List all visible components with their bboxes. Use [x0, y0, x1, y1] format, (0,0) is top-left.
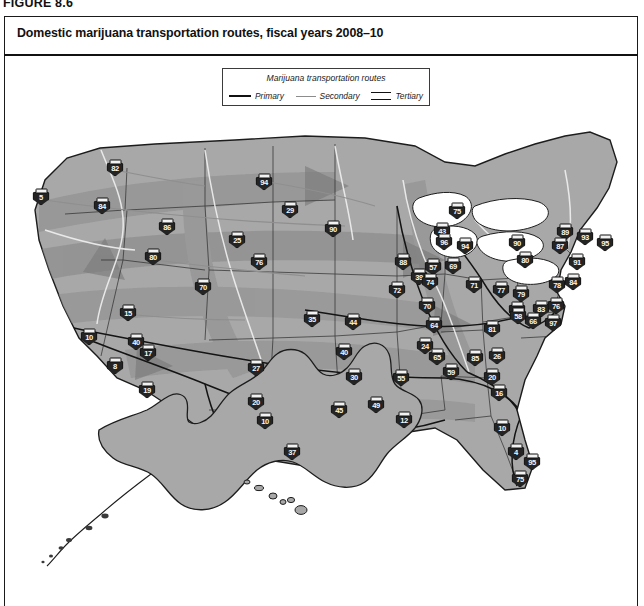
shield-number: 96	[436, 238, 453, 247]
interstate-shield-icon: 49	[368, 397, 385, 414]
shield-number: 35	[304, 315, 321, 324]
shield-number: 57	[425, 263, 442, 272]
interstate-shield-icon: 10	[257, 413, 274, 430]
shield-number: 87	[552, 242, 569, 251]
interstate-shield-icon: 55	[393, 370, 410, 387]
interstate-shield-icon: 76	[251, 254, 268, 271]
interstate-shield-icon: 64	[426, 317, 443, 334]
shield-number: 90	[325, 225, 342, 234]
interstate-shield-icon: 66	[525, 313, 542, 330]
shield-number: 77	[493, 286, 510, 295]
shield-number: 10	[81, 333, 98, 342]
shield-number: 16	[491, 389, 508, 398]
shield-number: 93	[577, 233, 594, 242]
shield-number: 66	[525, 317, 542, 326]
interstate-shield-icon: 97	[545, 315, 562, 332]
interstate-shield-icon: 82	[107, 160, 124, 177]
legend-title: Marijuana transportation routes	[223, 73, 429, 83]
shield-number: 5	[33, 193, 50, 202]
primary-route-swatch-icon	[229, 95, 251, 97]
shield-number: 78	[549, 281, 566, 290]
shield-number: 88	[395, 258, 412, 267]
shield-number: 10	[257, 417, 274, 426]
interstate-shield-icon: 44	[345, 314, 362, 331]
shield-number: 10	[494, 424, 511, 433]
shield-number: 40	[336, 348, 353, 357]
shield-number: 70	[195, 283, 212, 292]
shield-number: 75	[449, 207, 466, 216]
interstate-shield-icon: 27	[248, 360, 265, 377]
figure-title: Domestic marijuana transportation routes…	[17, 26, 383, 40]
interstate-shield-icon: 80	[145, 249, 162, 266]
legend-label-tertiary: Tertiary	[395, 91, 423, 101]
interstate-shield-icon: 30	[346, 369, 363, 386]
shield-number: 76	[548, 302, 565, 311]
interstate-shield-icon: 72	[389, 282, 406, 299]
interstate-shield-icon: 81	[484, 321, 501, 338]
shield-number: 71	[466, 281, 483, 290]
shield-number: 97	[545, 319, 562, 328]
shield-number: 17	[140, 349, 157, 358]
interstate-shield-icon: 75	[512, 471, 529, 488]
shield-number: 70	[419, 302, 436, 311]
shield-number: 84	[94, 202, 111, 211]
shield-number: 27	[248, 364, 265, 373]
interstate-shield-icon: 59	[443, 364, 460, 381]
interstate-shield-icon: 10	[81, 329, 98, 346]
shield-number: 75	[512, 475, 529, 484]
shield-number: 59	[443, 368, 460, 377]
interstate-shield-icon: 19	[139, 382, 156, 399]
interstate-shield-icon: 80	[517, 252, 534, 269]
interstate-shield-icon: 86	[159, 219, 176, 236]
interstate-shield-icon: 95	[597, 235, 614, 252]
shield-number: 12	[396, 416, 413, 425]
interstate-shield-icon: 84	[565, 274, 582, 291]
interstate-shield-icon: 45	[331, 402, 348, 419]
interstate-shield-icon: 84	[94, 198, 111, 215]
interstate-shield-icon: 75	[449, 203, 466, 220]
interstate-shield-icon: 69	[445, 258, 462, 275]
interstate-shield-icon: 29	[282, 202, 299, 219]
shield-number: 95	[524, 458, 541, 467]
shield-number: 25	[229, 236, 246, 245]
shield-number: 26	[489, 352, 506, 361]
interstate-shield-icon: 96	[436, 234, 453, 251]
shield-number: 72	[389, 286, 406, 295]
interstate-shield-icon: 76	[548, 298, 565, 315]
interstate-shield-icon: 20	[248, 394, 265, 411]
interstate-shield-icon: 37	[284, 444, 301, 461]
shield-number: 15	[120, 309, 137, 318]
interstate-shield-icon: 4	[508, 444, 525, 461]
shield-number: 4	[508, 448, 525, 457]
interstate-shield-icon: 95	[524, 454, 541, 471]
legend-label-secondary: Secondary	[320, 91, 360, 101]
title-divider	[4, 54, 638, 56]
legend-item-secondary: Secondary	[296, 91, 360, 101]
shield-number: 81	[484, 325, 501, 334]
legend-label-primary: Primary	[255, 91, 284, 101]
interstate-shield-icon: 16	[491, 385, 508, 402]
shield-number: 90	[509, 239, 526, 248]
interstate-shield-icon: 40	[336, 344, 353, 361]
shield-number: 37	[284, 448, 301, 457]
interstate-shield-icon: 71	[466, 277, 483, 294]
interstate-shield-icon: 79	[513, 286, 530, 303]
legend-item-primary: Primary	[229, 91, 284, 101]
shield-number: 44	[345, 318, 362, 327]
interstate-shield-icon: 15	[120, 305, 137, 322]
interstate-shield-icon: 10	[494, 420, 511, 437]
tertiary-route-swatch-icon	[371, 92, 391, 100]
interstate-shield-icon: 77	[493, 282, 510, 299]
interstate-shield-icon: 90	[509, 235, 526, 252]
shield-number: 58	[510, 312, 527, 321]
interstate-shield-icon: 87	[552, 238, 569, 255]
shield-number: 74	[422, 278, 439, 287]
interstate-shield-icon: 91	[569, 254, 586, 271]
shield-number: 8	[107, 362, 124, 371]
interstate-shield-icon: 70	[195, 279, 212, 296]
hawaii-inset	[244, 480, 307, 514]
shield-number: 80	[145, 253, 162, 262]
shield-number: 20	[484, 373, 501, 382]
shield-number: 20	[248, 398, 265, 407]
